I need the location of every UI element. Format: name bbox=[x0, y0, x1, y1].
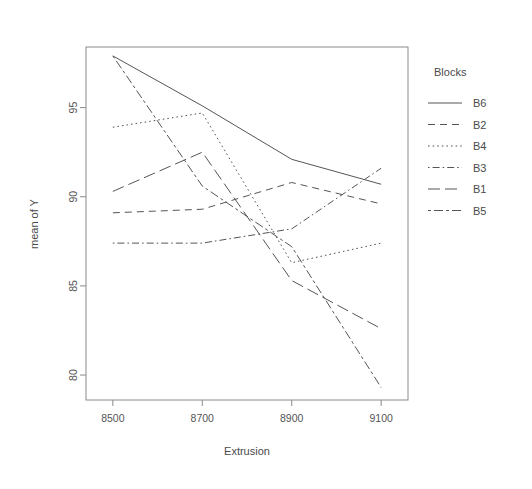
x-tick-label: 9100 bbox=[369, 412, 393, 424]
legend-label-b4: B4 bbox=[473, 140, 486, 152]
series-group bbox=[113, 56, 381, 388]
plot-frame bbox=[86, 47, 408, 400]
legend-label-b2: B2 bbox=[473, 119, 486, 131]
series-line-b2 bbox=[113, 182, 381, 212]
series-line-b5 bbox=[113, 56, 381, 388]
series-line-b3 bbox=[113, 168, 381, 243]
legend-label-b1: B1 bbox=[473, 183, 486, 195]
y-tick-label: 95 bbox=[67, 102, 79, 114]
x-axis-title: Extrusion bbox=[224, 445, 270, 457]
interaction-plot: 80859095 8500870089009100 Extrusion mean… bbox=[0, 0, 532, 489]
legend: Blocks B6B2B4B3B1B5 bbox=[428, 66, 486, 217]
y-tick-label: 80 bbox=[67, 369, 79, 381]
y-tick-label: 90 bbox=[67, 191, 79, 203]
legend-label-b6: B6 bbox=[473, 97, 486, 109]
legend-label-b5: B5 bbox=[473, 205, 486, 217]
x-tick-label: 8500 bbox=[101, 412, 125, 424]
x-axis-ticks: 8500870089009100 bbox=[101, 400, 393, 424]
y-tick-label: 85 bbox=[67, 280, 79, 292]
legend-title: Blocks bbox=[434, 66, 467, 78]
chart-canvas: 80859095 8500870089009100 Extrusion mean… bbox=[0, 0, 532, 489]
x-tick-label: 8900 bbox=[280, 412, 304, 424]
series-line-b6 bbox=[113, 56, 381, 184]
legend-label-b3: B3 bbox=[473, 162, 486, 174]
y-axis-title: mean of Y bbox=[28, 198, 40, 249]
x-tick-label: 8700 bbox=[191, 412, 215, 424]
y-axis-ticks: 80859095 bbox=[67, 102, 86, 381]
series-line-b4 bbox=[113, 113, 381, 263]
series-line-b1 bbox=[113, 152, 381, 328]
